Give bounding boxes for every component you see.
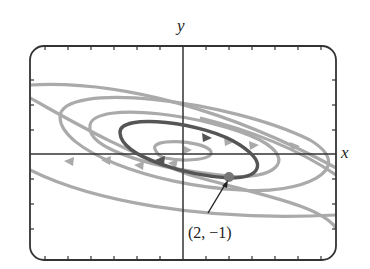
trajectories bbox=[30, 84, 340, 238]
arrow-icon bbox=[64, 157, 74, 166]
trajectory-outer-1 bbox=[30, 84, 340, 170]
point-label: (2, −1) bbox=[188, 224, 232, 242]
arrow-icon bbox=[134, 161, 144, 170]
y-axis-label: y bbox=[177, 16, 185, 36]
arrow-icon bbox=[184, 146, 192, 154]
highlighted-point bbox=[224, 172, 234, 182]
phase-portrait bbox=[0, 0, 370, 269]
arrow-icon bbox=[202, 133, 212, 142]
axes bbox=[30, 46, 336, 260]
x-axis-label: x bbox=[341, 143, 349, 163]
arrow-icon bbox=[249, 141, 259, 150]
